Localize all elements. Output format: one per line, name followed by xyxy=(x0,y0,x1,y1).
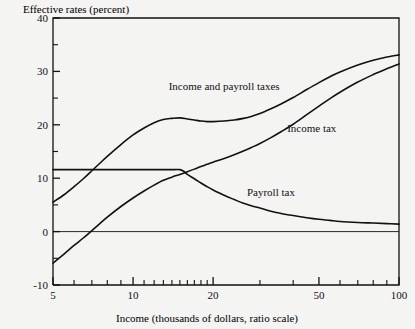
chart-canvas: Effective rates (percent) -10010203040 5… xyxy=(0,0,415,329)
x-tick-label: 100 xyxy=(391,289,408,301)
series-label-2: Payroll tax xyxy=(247,186,295,198)
y-tick-label: 10 xyxy=(37,172,49,184)
y-tick-label: 40 xyxy=(37,12,49,24)
x-tick-label: 20 xyxy=(208,289,220,301)
y-tick-label: 0 xyxy=(43,226,49,238)
y-tick-label: -10 xyxy=(33,279,48,291)
series-label-1: Income tax xyxy=(287,122,337,134)
y-tick-label: 20 xyxy=(37,119,49,131)
x-tick-label: 10 xyxy=(128,289,140,301)
series-label-0: Income and payroll taxes xyxy=(169,80,280,92)
x-tick-label: 5 xyxy=(50,289,56,301)
y-tick-label: 30 xyxy=(37,65,49,77)
x-tick-label: 50 xyxy=(313,289,325,301)
effective-tax-rates-chart: Effective rates (percent) -10010203040 5… xyxy=(0,0,415,329)
x-axis-title: Income (thousands of dollars, ratio scal… xyxy=(116,312,298,325)
